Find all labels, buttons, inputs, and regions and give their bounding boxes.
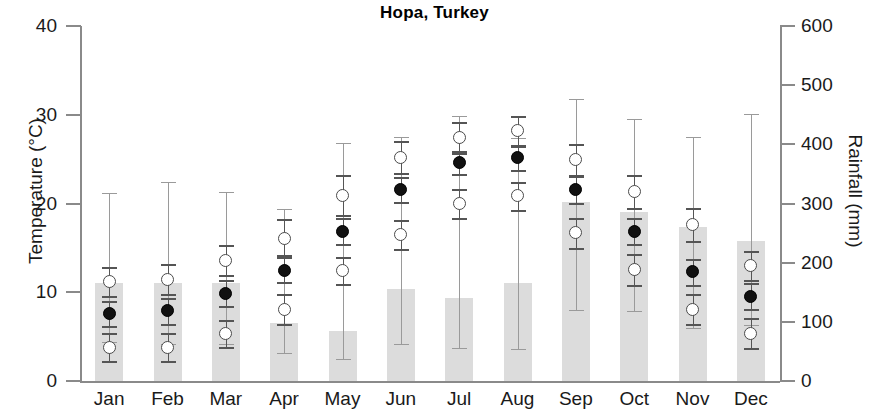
temperature-error-cap xyxy=(569,176,584,178)
rainfall-error-cap xyxy=(277,209,292,210)
temperature-error-cap xyxy=(336,257,351,259)
temperature-error-cap xyxy=(511,116,526,118)
x-axis-ticklabel-dec: Dec xyxy=(722,388,780,410)
temperature-error-cap xyxy=(686,259,701,261)
rainfall-error-cap xyxy=(219,192,234,193)
temperature-error-cap xyxy=(394,141,409,143)
y-axis-tick-right xyxy=(780,203,795,205)
y-axis-ticklabel-left: 20 xyxy=(0,194,57,213)
mean-temperature-marker xyxy=(569,183,582,196)
temperature-error-cap xyxy=(569,203,584,205)
rainfall-error-cap xyxy=(394,344,409,345)
temperature-error-cap xyxy=(277,257,292,259)
extreme-temperature-marker xyxy=(511,189,524,202)
temperature-error-cap xyxy=(219,320,234,322)
temperature-error-cap xyxy=(511,182,526,184)
temperature-error-cap xyxy=(161,361,176,363)
temperature-error-cap xyxy=(627,244,642,246)
temperature-error-cap xyxy=(744,251,759,253)
y-axis-ticklabel-left: 0 xyxy=(0,371,57,390)
temperature-error-cap xyxy=(627,175,642,177)
temperature-error-cap xyxy=(744,318,759,320)
temperature-error-cap xyxy=(686,285,701,287)
extreme-temperature-marker xyxy=(453,197,466,210)
rainfall-error-cap xyxy=(511,349,526,350)
mean-temperature-marker xyxy=(511,151,524,164)
extreme-temperature-marker xyxy=(628,263,641,276)
temperature-error-cap xyxy=(102,326,117,328)
temperature-error-cap xyxy=(336,175,351,177)
temperature-error-cap xyxy=(219,347,234,349)
temperature-error-cap xyxy=(569,248,584,250)
extreme-temperature-marker xyxy=(103,275,116,288)
temperature-error-cap xyxy=(161,298,176,300)
rainfall-error-cap xyxy=(394,137,409,138)
rainfall-error-cap xyxy=(161,182,176,183)
mean-temperature-marker xyxy=(336,225,349,238)
temperature-error-cap xyxy=(219,280,234,282)
rainfall-error-cap xyxy=(627,311,642,312)
x-axis-ticklabel-feb: Feb xyxy=(139,388,197,410)
temperature-error-cap xyxy=(102,333,117,335)
extreme-temperature-marker xyxy=(453,131,466,144)
temperature-error-cap xyxy=(277,324,292,326)
temperature-error-cap xyxy=(627,208,642,210)
x-axis-ticklabel-jan: Jan xyxy=(80,388,138,410)
y-axis-tick-right xyxy=(780,84,795,86)
temperature-error-cap xyxy=(686,324,701,326)
temperature-error-cap xyxy=(102,301,117,303)
temperature-error-cap xyxy=(627,218,642,220)
x-axis-ticklabel-jul: Jul xyxy=(430,388,488,410)
rainfall-error-cap xyxy=(686,137,701,138)
chart-title: Hopa, Turkey xyxy=(0,3,869,23)
rainfall-error-cap xyxy=(336,143,351,144)
temperature-error-cap xyxy=(452,189,467,191)
climate-chart-figure: Hopa, Turkey Temperature (°C) Rainfall (… xyxy=(0,0,869,414)
y-axis-ticklabel-left: 10 xyxy=(0,282,57,301)
y-axis-ticklabel-right: 200 xyxy=(801,253,861,272)
mean-temperature-marker xyxy=(453,156,466,169)
extreme-temperature-marker xyxy=(686,303,699,316)
mean-temperature-marker xyxy=(219,287,232,300)
rainfall-error-cap xyxy=(686,328,701,329)
y-axis-tick-left xyxy=(66,291,81,293)
rainfall-error-cap xyxy=(102,193,117,194)
y-axis-tick-left xyxy=(66,25,81,27)
x-axis-ticklabel-nov: Nov xyxy=(664,388,722,410)
temperature-error-cap xyxy=(452,174,467,176)
temperature-error-cap xyxy=(627,254,642,256)
mean-temperature-marker xyxy=(628,225,641,238)
temperature-error-cap xyxy=(394,220,409,222)
y-axis-label-rainfall: Rainfall (mm) xyxy=(844,71,866,311)
y-axis-ticklabel-right: 500 xyxy=(801,75,861,94)
y-axis-tick-left xyxy=(66,114,81,116)
extreme-temperature-marker xyxy=(511,124,524,137)
x-axis-ticklabel-jun: Jun xyxy=(372,388,430,410)
y-axis-ticklabel-right: 100 xyxy=(801,312,861,331)
rainfall-error-cap xyxy=(277,353,292,354)
temperature-error-cap xyxy=(394,173,409,175)
extreme-temperature-marker xyxy=(394,151,407,164)
rainfall-error-cap xyxy=(569,99,584,100)
temperature-error-cap xyxy=(744,309,759,311)
temperature-error-cap xyxy=(627,285,642,287)
y-axis-tick-left xyxy=(66,380,81,382)
rainfall-error-cap xyxy=(744,114,759,115)
temperature-error-cap xyxy=(452,122,467,124)
temperature-error-cap xyxy=(102,361,117,363)
temperature-error-cap xyxy=(161,294,176,296)
mean-temperature-marker xyxy=(278,264,291,277)
extreme-temperature-marker xyxy=(103,341,116,354)
y-axis-tick-right xyxy=(780,262,795,264)
temperature-error-cap xyxy=(336,284,351,286)
rainfall-error-cap xyxy=(627,119,642,120)
rainfall-error-cap xyxy=(569,310,584,311)
x-axis-ticklabel-apr: Apr xyxy=(255,388,313,410)
temperature-error-cap xyxy=(452,151,467,153)
extreme-temperature-marker xyxy=(161,341,174,354)
temperature-error-cap xyxy=(161,264,176,266)
y-axis-tick-right xyxy=(780,25,795,27)
temperature-error-cap xyxy=(219,245,234,247)
temperature-error-cap xyxy=(161,324,176,326)
y-axis-ticklabel-left: 40 xyxy=(0,16,57,35)
